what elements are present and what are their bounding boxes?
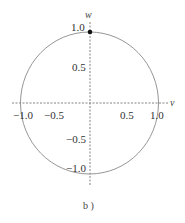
circle-plot: w v −1.0 −0.5 0.5 1.0 1.0 0.5 −0.5 −1.0 … [0,0,185,223]
x-tick-label: −0.5 [44,109,64,121]
figure-caption: b ) [83,200,94,212]
y-axis-label: w [85,9,92,20]
y-tick-label: −1.0 [66,162,86,174]
x-tick-label: 0.5 [120,109,134,121]
y-tick-label: −0.5 [66,133,86,145]
x-tick-label: 1.0 [150,109,164,121]
x-tick-label: −1.0 [13,109,33,121]
marked-point [88,30,93,35]
x-axis-label: v [170,97,175,108]
y-tick-label: 1.0 [71,21,85,33]
y-tick-label: 0.5 [72,61,86,73]
